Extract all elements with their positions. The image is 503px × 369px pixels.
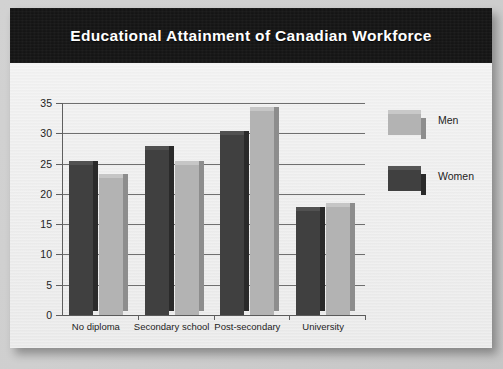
bar-side — [350, 203, 355, 311]
x-axis-tick — [138, 315, 139, 320]
bar-men-no-diploma[interactable] — [99, 178, 123, 315]
x-axis-tick — [289, 315, 290, 320]
y-axis-tick — [56, 285, 62, 286]
bar-men-secondary-school[interactable] — [175, 165, 199, 315]
legend-swatch-men — [388, 110, 421, 131]
bar-face — [296, 211, 320, 315]
bar-top — [220, 131, 244, 135]
legend-swatch-side — [421, 174, 426, 195]
bar-face — [99, 178, 123, 315]
x-axis-category-label: Post-secondary — [214, 322, 280, 332]
slide-card: Educational Attainment of Canadian Workf… — [10, 8, 492, 348]
bar-women-post-secondary[interactable] — [220, 135, 244, 315]
bar-side — [199, 161, 204, 311]
y-axis-tick — [56, 194, 62, 195]
y-axis-tick — [56, 164, 62, 165]
legend-swatch-side — [421, 118, 426, 139]
bar-men-post-secondary[interactable] — [250, 111, 274, 315]
x-axis-category-label: University — [302, 322, 344, 332]
x-axis-category-label: No diploma — [72, 322, 120, 332]
chart-legend: MenWomen — [382, 103, 487, 215]
legend-swatch-face — [388, 114, 421, 135]
bar-top — [326, 203, 350, 207]
bar-top — [99, 174, 123, 178]
legend-item-women[interactable]: Women — [382, 159, 487, 193]
bar-side — [320, 207, 325, 311]
bar-side — [274, 107, 279, 311]
bar-top — [69, 161, 93, 165]
legend-label: Women — [438, 171, 474, 182]
bar-face — [145, 150, 169, 315]
bar-top — [250, 107, 274, 111]
bar-side — [123, 174, 128, 311]
bar-face — [220, 135, 244, 315]
slide-title: Educational Attainment of Canadian Workf… — [70, 27, 432, 45]
legend-swatch-women — [388, 166, 421, 187]
bar-face — [326, 207, 350, 315]
x-axis-category-label: Secondary school — [134, 322, 210, 332]
legend-item-men[interactable]: Men — [382, 103, 487, 137]
bar-side — [244, 131, 249, 311]
x-axis-tick — [365, 315, 366, 320]
bar-top — [296, 207, 320, 211]
bar-top — [145, 146, 169, 150]
title-band: Educational Attainment of Canadian Workf… — [10, 8, 492, 63]
bar-women-no-diploma[interactable] — [69, 165, 93, 315]
bar-women-secondary-school[interactable] — [145, 150, 169, 315]
bar-men-university[interactable] — [326, 207, 350, 315]
y-axis-tick — [56, 224, 62, 225]
screenshot-root: Educational Attainment of Canadian Workf… — [0, 0, 503, 369]
y-axis-tick — [56, 315, 62, 316]
y-axis-tick — [56, 254, 62, 255]
y-axis-tick — [56, 103, 62, 104]
bar-side — [169, 146, 174, 311]
bar-face — [69, 165, 93, 315]
bar-side — [93, 161, 98, 311]
bar-top — [175, 161, 199, 165]
legend-label: Men — [438, 115, 458, 126]
y-axis-tick — [56, 133, 62, 134]
bar-face — [250, 111, 274, 315]
bar-women-university[interactable] — [296, 211, 320, 315]
legend-swatch-face — [388, 170, 421, 191]
bar-face — [175, 165, 199, 315]
x-axis-tick — [214, 315, 215, 320]
